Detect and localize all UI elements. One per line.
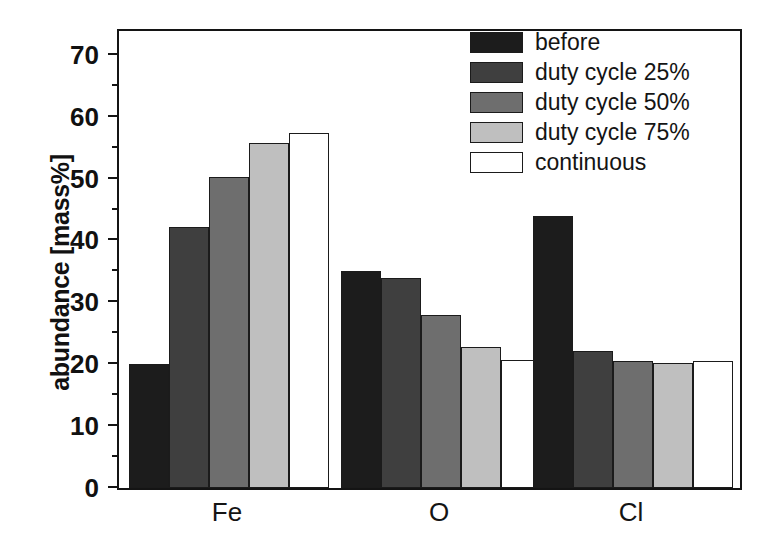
- bar: [169, 227, 209, 488]
- legend-item: duty cycle 75%: [470, 118, 720, 147]
- legend-item: duty cycle 50%: [470, 88, 720, 117]
- legend-swatch: [470, 122, 523, 143]
- y-tick-major: 10: [108, 424, 119, 426]
- y-tick-major: 20: [108, 362, 119, 364]
- y-tick-major: 40: [108, 238, 119, 240]
- y-tick-label: 50: [70, 166, 99, 192]
- y-tick-label: 40: [70, 227, 99, 253]
- bar: [249, 143, 289, 488]
- bar: [381, 278, 421, 488]
- y-tick-minor: [112, 84, 119, 86]
- legend-label: duty cycle 25%: [535, 61, 690, 84]
- y-tick-label: 60: [70, 104, 99, 130]
- y-tick-minor: [112, 455, 119, 457]
- bar: [573, 351, 613, 488]
- y-tick-minor: [112, 269, 119, 271]
- y-tick-major: 30: [108, 300, 119, 302]
- y-tick-major: 60: [108, 115, 119, 117]
- legend-item: continuous: [470, 148, 720, 177]
- bar: [653, 363, 693, 488]
- legend-label: before: [535, 31, 600, 54]
- legend-swatch: [470, 32, 523, 53]
- y-tick-major: 50: [108, 177, 119, 179]
- bar: [341, 271, 381, 488]
- bar-chart: abundance [mass%] 010203040506070 FeOCl …: [0, 0, 772, 549]
- bar: [129, 364, 169, 488]
- legend-label: continuous: [535, 151, 646, 174]
- legend-swatch: [470, 92, 523, 113]
- y-tick-label: 70: [70, 42, 99, 68]
- x-axis-label-cl: Cl: [619, 497, 644, 528]
- legend-swatch: [470, 152, 523, 173]
- bar: [289, 133, 329, 488]
- bar: [693, 361, 733, 488]
- y-tick-label: 30: [70, 289, 99, 315]
- legend-label: duty cycle 75%: [535, 121, 690, 144]
- y-tick-minor: [112, 331, 119, 333]
- legend-item: duty cycle 25%: [470, 58, 720, 87]
- bar: [613, 361, 653, 488]
- bar: [209, 177, 249, 488]
- legend-item: before: [470, 28, 720, 57]
- y-tick-major: 0: [108, 486, 119, 488]
- legend: beforeduty cycle 25%duty cycle 50%duty c…: [470, 28, 720, 178]
- bar: [421, 315, 461, 488]
- bar: [461, 347, 501, 488]
- y-tick-label: 10: [70, 413, 99, 439]
- legend-label: duty cycle 50%: [535, 91, 690, 114]
- y-tick-minor: [112, 146, 119, 148]
- bar: [533, 216, 573, 488]
- x-axis-label-o: O: [429, 497, 449, 528]
- y-tick-label: 0: [85, 475, 99, 501]
- y-tick-major: 70: [108, 53, 119, 55]
- y-tick-minor: [112, 393, 119, 395]
- x-axis-label-fe: Fe: [212, 497, 242, 528]
- legend-swatch: [470, 62, 523, 83]
- y-tick-label: 20: [70, 351, 99, 377]
- y-tick-minor: [112, 208, 119, 210]
